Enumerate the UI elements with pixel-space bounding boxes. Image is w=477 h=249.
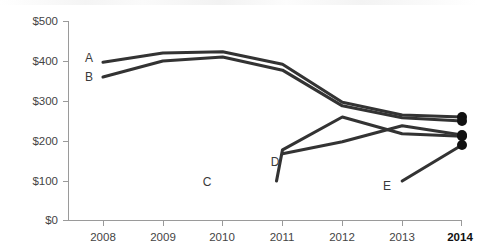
x-tick-label-2014: 2014 (447, 231, 473, 243)
y-tick-label-500: $500 (32, 15, 58, 27)
series-layer (103, 52, 467, 181)
series-label-b: B (85, 70, 93, 84)
x-tick-label-2012: 2012 (329, 231, 355, 243)
series-line-e (402, 145, 462, 181)
y-tick-label-400: $400 (32, 55, 58, 67)
series-label-d: D (271, 155, 280, 169)
y-tick-label-0: $0 (45, 214, 58, 226)
y-tick-label-300: $300 (32, 95, 58, 107)
series-label-c: C (203, 175, 212, 189)
endpoint-dot-d (457, 130, 467, 140)
series-label-e: E (383, 179, 391, 193)
series-label-layer: ABCDE (85, 51, 391, 193)
series-line-b (103, 57, 462, 121)
x-tick-label-2008: 2008 (90, 231, 116, 243)
endpoint-dot-b (457, 116, 467, 126)
endpoint-dot-e (457, 140, 467, 150)
x-tick-label-2009: 2009 (150, 231, 176, 243)
chart-canvas: $500 $400 $300 $200 $100 $0 2008 2009 20… (0, 0, 477, 249)
line-chart: $500 $400 $300 $200 $100 $0 2008 2009 20… (0, 0, 477, 249)
y-tick-label-200: $200 (32, 135, 58, 147)
x-tick-label-2010: 2010 (209, 231, 235, 243)
y-tick-label-100: $100 (32, 175, 58, 187)
x-axis-group: 2008 2009 2010 2011 2012 2013 2014 (69, 221, 474, 244)
x-tick-label-2011: 2011 (270, 231, 295, 243)
y-axis-group: $500 $400 $300 $200 $100 $0 (32, 15, 68, 226)
series-label-a: A (85, 51, 93, 65)
series-line-d (283, 126, 463, 154)
x-tick-label-2013: 2013 (389, 231, 415, 243)
